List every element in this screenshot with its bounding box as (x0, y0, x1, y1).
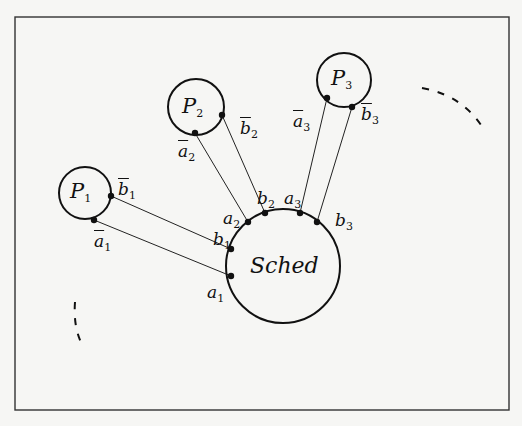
link-a2 (195, 133, 248, 222)
port-a3bar (324, 95, 330, 101)
label-b3bar: b3 (361, 106, 379, 126)
port-b3 (314, 219, 320, 225)
ellipsis-arc-lower-left (75, 302, 84, 348)
label-p1: P1 (70, 181, 91, 204)
label-a1: a1 (207, 284, 224, 304)
label-b2bar: b2 (240, 120, 258, 140)
label-sched: Sched (250, 255, 319, 277)
port-a1 (228, 273, 234, 279)
label-a2bar: a2 (178, 143, 195, 163)
label-a1bar: a1 (94, 233, 111, 253)
link-b3 (317, 107, 352, 222)
diagram-canvas (0, 0, 522, 426)
port-b2bar (219, 112, 225, 118)
label-b2: b2 (257, 190, 275, 210)
label-p2: P2 (182, 96, 203, 119)
port-a1bar (91, 217, 97, 223)
port-b3bar (349, 104, 355, 110)
port-b1bar (108, 193, 114, 199)
label-a3: a3 (284, 190, 301, 210)
label-a3bar: a3 (293, 113, 310, 133)
label-b1bar: b1 (118, 181, 136, 201)
label-b1: b1 (213, 231, 231, 251)
label-a2: a2 (223, 210, 240, 230)
port-a2 (245, 219, 251, 225)
ellipsis-arc-upper-right (422, 88, 483, 128)
label-b3: b3 (335, 212, 353, 232)
link-a1 (94, 220, 231, 276)
port-a2bar (192, 130, 198, 136)
label-p3: P3 (331, 68, 352, 91)
